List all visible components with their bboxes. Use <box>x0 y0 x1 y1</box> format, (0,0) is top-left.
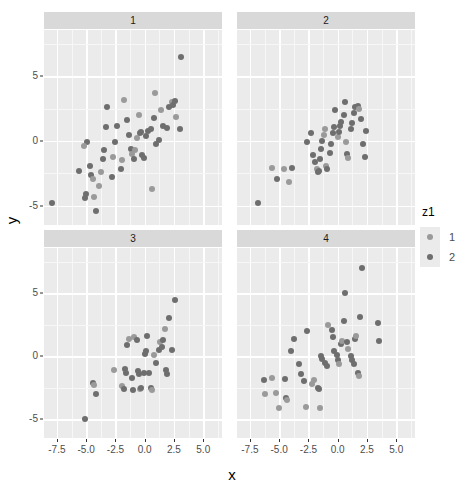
y-tick-mark <box>40 419 43 420</box>
data-point <box>328 141 334 147</box>
data-point <box>276 405 282 411</box>
data-point <box>357 314 363 320</box>
data-point <box>353 333 359 339</box>
data-point <box>124 342 130 348</box>
x-tick-mark <box>145 439 146 442</box>
data-point <box>172 98 178 104</box>
grid-minor-horizontal <box>237 388 415 389</box>
data-point <box>151 115 157 121</box>
data-point <box>136 112 142 118</box>
grid-minor-vertical <box>101 248 102 438</box>
legend-item-1[interactable]: 1 <box>420 227 474 247</box>
x-tick-mark <box>57 439 58 442</box>
grid-major-horizontal <box>237 206 415 207</box>
grid-major-vertical <box>250 30 251 225</box>
data-point <box>98 169 104 175</box>
grid-major-vertical <box>367 248 368 438</box>
data-point <box>322 126 328 132</box>
data-point <box>166 315 172 321</box>
data-point <box>269 375 275 381</box>
grid-major-vertical <box>174 30 175 225</box>
legend-point-icon <box>427 234 433 240</box>
grid-minor-vertical <box>189 30 190 225</box>
data-point <box>160 337 166 343</box>
legend-key-swatch <box>420 227 440 247</box>
grid-major-vertical <box>308 30 309 225</box>
grid-major-horizontal <box>44 419 222 420</box>
grid-major-vertical <box>57 248 58 438</box>
scatter-plot-figure: y x 1234 -505-505-7.5-5.0-2.50.02.55.0-7… <box>0 0 474 489</box>
data-point <box>310 152 316 158</box>
data-point <box>110 154 116 160</box>
grid-minor-horizontal <box>237 173 415 174</box>
grid-minor-vertical <box>265 248 266 438</box>
data-point <box>156 137 162 143</box>
data-point <box>303 404 309 410</box>
data-point <box>356 106 362 112</box>
data-point <box>101 147 107 153</box>
data-point <box>282 376 288 382</box>
data-point <box>177 126 183 132</box>
data-point <box>49 200 55 206</box>
grid-major-vertical <box>115 248 116 438</box>
facet-panel-3 <box>44 248 222 438</box>
data-point <box>351 361 357 367</box>
data-point <box>151 352 157 358</box>
facet-strip-4: 4 <box>237 230 415 247</box>
data-point <box>173 114 179 120</box>
grid-minor-vertical <box>411 248 412 438</box>
data-point <box>261 377 267 383</box>
data-point <box>162 326 168 332</box>
facet-strip-2: 2 <box>237 12 415 29</box>
data-point <box>329 327 335 333</box>
data-point <box>289 165 295 171</box>
data-point <box>308 130 314 136</box>
grid-major-vertical <box>279 30 280 225</box>
facet-strip-3: 3 <box>44 230 222 247</box>
y-tick-label: 0 <box>10 136 38 146</box>
y-tick-mark <box>40 141 43 142</box>
x-tick-mark <box>396 439 397 442</box>
legend-item-2[interactable]: 2 <box>420 247 474 267</box>
data-point <box>319 138 325 144</box>
x-tick-label: 0.0 <box>138 445 152 455</box>
x-axis-title: x <box>44 466 420 483</box>
facet-strip-label: 4 <box>323 233 329 244</box>
grid-major-horizontal <box>237 356 415 357</box>
grid-minor-vertical <box>294 30 295 225</box>
x-tick-mark <box>86 439 87 442</box>
data-point <box>124 117 130 123</box>
data-point <box>91 382 97 388</box>
x-tick-label: -2.5 <box>107 445 124 455</box>
x-tick-mark <box>203 439 204 442</box>
data-point <box>359 265 365 271</box>
x-tick-label: -5.0 <box>271 445 288 455</box>
data-point <box>138 385 144 391</box>
data-point <box>143 133 149 139</box>
data-point <box>126 132 132 138</box>
data-point <box>341 112 347 118</box>
x-tick-label: -7.5 <box>48 445 65 455</box>
data-point <box>148 126 154 132</box>
x-tick-label: 2.5 <box>167 445 181 455</box>
data-point <box>103 124 109 130</box>
data-point <box>172 297 178 303</box>
y-tick-label: 5 <box>10 71 38 81</box>
data-point <box>281 166 287 172</box>
data-point <box>336 361 342 367</box>
grid-minor-vertical <box>352 248 353 438</box>
data-point <box>123 370 129 376</box>
grid-major-horizontal <box>237 419 415 420</box>
data-point <box>324 166 330 172</box>
data-point <box>134 135 140 141</box>
data-point <box>304 328 310 334</box>
legend-item-label: 1 <box>449 231 455 243</box>
data-point <box>330 334 336 340</box>
data-point <box>152 90 158 96</box>
data-point <box>83 191 89 197</box>
x-tick-mark <box>338 439 339 442</box>
y-tick-label: -5 <box>10 201 38 211</box>
data-point <box>335 134 341 140</box>
facet-strip-label: 2 <box>323 15 329 26</box>
data-point <box>316 386 322 392</box>
